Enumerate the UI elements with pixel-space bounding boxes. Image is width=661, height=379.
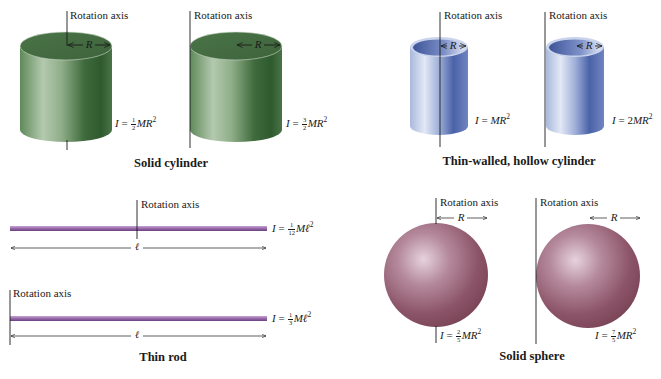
- equation-solid-sphere-center: I = 25MR2: [440, 329, 481, 343]
- radius-label: R: [458, 212, 465, 223]
- solid-sphere-center-axis: [384, 198, 488, 343]
- eq-exp: 2: [633, 327, 637, 336]
- caption-solid-sphere: Solid sphere: [499, 350, 564, 363]
- radius-label: R: [611, 212, 618, 223]
- equation-hollow-cylinder-edge: I = 2MR2: [612, 115, 653, 126]
- eq-den: 2: [131, 125, 135, 132]
- radius-label: R: [586, 40, 593, 51]
- eq-rhs: MR: [490, 114, 506, 126]
- caption-thin-rod: Thin rod: [139, 351, 186, 364]
- eq-den: 2: [302, 125, 306, 132]
- hollow-cylinder-edge-axis: [545, 12, 604, 147]
- rod: [10, 316, 267, 321]
- eq-rhs: Mℓ: [296, 222, 310, 234]
- solid-sphere-tangent-axis: [536, 198, 640, 344]
- rotation-axis-label: Rotation axis: [444, 10, 502, 21]
- solid-cylinder-edge-axis: [190, 11, 282, 148]
- eq-exp: 2: [649, 112, 653, 121]
- equation-thin-rod-center: I = 112Mℓ2: [272, 222, 313, 236]
- eq-equals: =: [446, 329, 452, 341]
- radius-label: R: [255, 39, 262, 50]
- eq-exp: 2: [310, 220, 314, 229]
- eq-rhs: MR: [633, 114, 649, 126]
- eq-fraction: 25: [456, 329, 460, 343]
- eq-rhs: MR: [137, 117, 153, 129]
- rotation-axis-label: Rotation axis: [540, 197, 598, 208]
- rotation-axis-label: Rotation axis: [70, 10, 128, 21]
- eq-lhs: I: [475, 114, 479, 126]
- eq-rhs: MR: [308, 117, 324, 129]
- moment-of-inertia-figure: [0, 0, 661, 379]
- equation-solid-cylinder-center: I = 12MR2: [115, 117, 156, 131]
- eq-equals: =: [601, 329, 607, 341]
- rotation-axis-label: Rotation axis: [141, 199, 199, 210]
- caption-solid-cylinder: Solid cylinder: [134, 157, 208, 170]
- eq-exp: 2: [307, 310, 311, 319]
- rotation-axis-label: Rotation axis: [13, 288, 71, 299]
- eq-lhs: I: [272, 222, 276, 234]
- radius-label: R: [450, 40, 457, 51]
- eq-exp: 2: [506, 112, 510, 121]
- solid-cylinder-center-axis: [20, 11, 112, 150]
- eq-lhs: I: [440, 329, 444, 341]
- rod: [10, 226, 267, 231]
- rotation-axis-label: Rotation axis: [194, 10, 252, 21]
- eq-den: 5: [611, 337, 615, 344]
- eq-rhs: Mℓ: [294, 312, 308, 324]
- eq-lhs: I: [595, 329, 599, 341]
- eq-lhs: I: [272, 312, 276, 324]
- radius-label: R: [86, 39, 93, 50]
- eq-equals: =: [292, 117, 298, 129]
- rotation-axis-label: Rotation axis: [549, 10, 607, 21]
- eq-fraction: 12: [131, 117, 135, 131]
- caption-hollow-cylinder: Thin-walled, hollow cylinder: [442, 155, 595, 168]
- eq-lhs: I: [115, 117, 119, 129]
- equation-solid-cylinder-edge: I = 32MR2: [286, 117, 327, 131]
- eq-lhs: I: [286, 117, 290, 129]
- length-label: ℓ: [135, 330, 139, 340]
- eq-den: 3: [288, 320, 292, 327]
- eq-equals: =: [278, 222, 284, 234]
- eq-exp: 2: [153, 115, 157, 124]
- hollow-cylinder-center-axis: [410, 12, 468, 147]
- eq-equals: =: [278, 312, 284, 324]
- eq-rhs: MR: [462, 329, 478, 341]
- length-label: ℓ: [135, 242, 139, 252]
- eq-exp: 2: [478, 327, 482, 336]
- eq-fraction: 112: [288, 222, 295, 236]
- equation-hollow-cylinder-center: I = MR2: [475, 115, 510, 126]
- eq-fraction: 32: [302, 117, 306, 131]
- eq-fraction: 13: [288, 312, 292, 326]
- eq-rhs: MR: [617, 329, 633, 341]
- eq-den: 12: [288, 230, 295, 237]
- eq-equals: =: [121, 117, 127, 129]
- equation-solid-sphere-tangent: I = 75MR2: [595, 329, 636, 343]
- eq-equals: =: [618, 114, 624, 126]
- eq-equals: =: [481, 114, 487, 126]
- eq-den: 5: [456, 337, 460, 344]
- rotation-axis-label: Rotation axis: [440, 197, 498, 208]
- eq-exp: 2: [324, 115, 328, 124]
- eq-fraction: 75: [611, 329, 615, 343]
- equation-thin-rod-end: I = 13Mℓ2: [272, 312, 311, 326]
- eq-lhs: I: [612, 114, 616, 126]
